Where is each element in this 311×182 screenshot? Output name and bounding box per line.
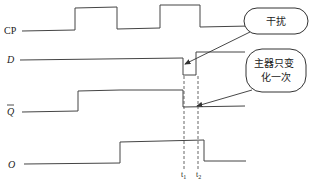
timing-diagram-canvas: CP D Q O t1 t2	[0, 0, 311, 182]
callout-box-master-changes-once	[246, 49, 306, 92]
signal-label-cp: CP	[4, 25, 17, 36]
signal-label-qbar: Q	[7, 106, 15, 117]
time-marker-t1: t1	[181, 76, 186, 180]
waveform-d	[20, 52, 245, 75]
signal-qbar: Q	[7, 90, 245, 117]
callout-text-interference: 干扰	[266, 15, 286, 27]
time-marker-t2: t2	[196, 76, 201, 180]
signal-d: D	[6, 52, 245, 75]
callout-arrow-master-changes-once	[197, 90, 252, 106]
timing-diagram: CP D Q O t1 t2	[0, 0, 311, 182]
waveform-cp	[22, 5, 250, 31]
callout-arrow-interference	[185, 32, 250, 64]
time-label-t2: t2	[196, 170, 201, 180]
time-label-t1: t1	[181, 170, 186, 180]
waveform-qbar	[22, 90, 245, 112]
callout-master-changes-once: 主器只变 化一次	[197, 49, 306, 106]
signal-label-d: D	[6, 54, 15, 65]
signal-label-o: O	[8, 159, 15, 170]
signal-cp: CP	[4, 5, 250, 36]
waveform-o	[24, 140, 246, 164]
signal-o: O	[8, 140, 246, 170]
